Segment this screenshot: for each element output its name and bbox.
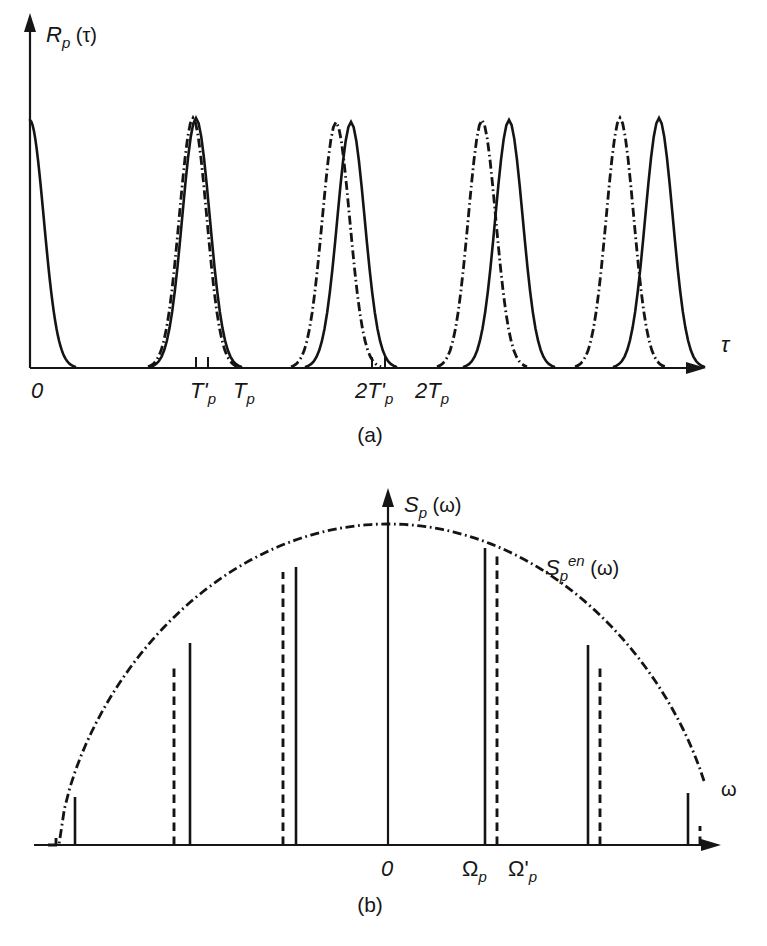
panel-a-caption: (a) [357,423,383,446]
panel-a: 0T'pTp2T'p2TpRp (τ)τ(a) [24,13,731,446]
panel-a-dashdot-peak [148,118,238,367]
panel-b-y-axis-label: Sp (ω) [404,492,462,521]
figure-container: 0T'pTp2T'p2TpRp (τ)τ(a) 0ΩpΩ'pSp (ω)Spen… [0,0,767,946]
panel-a-x-axis-label: τ [721,332,731,357]
panel-b-x-tick-label: Ω'p [508,856,537,885]
panel-a-y-axis-label: Rp (τ) [46,22,97,51]
panel-b-x-axis-arrowhead [701,839,721,851]
panel-a-solid-peak [30,120,75,367]
panel-a-solid-peak [464,120,554,367]
panel-a-x-tick-label: 2T'p [354,378,393,407]
panel-a-x-tick-label-text: 0 [31,378,44,403]
panel-a-x-tick-label: Tp [233,378,255,407]
panel-b-x-tick-label: Ωp [462,856,487,885]
panel-b: 0ΩpΩ'pSp (ω)Spen (ω)ω(b) [34,488,737,916]
panel-a-x-axis-arrowhead [686,362,706,374]
panel-a-x-tick-label: 0 [31,378,44,403]
panel-a-x-tick-label: 2Tp [414,378,449,407]
panel-b-y-axis-arrowhead [382,488,394,507]
panel-b-x-tick-label: 0 [381,856,394,881]
panel-a-x-tick-label: T'p [190,378,216,407]
panel-a-x-tick-label-text: T'p [190,378,216,407]
panel-a-x-tick-label-text: Tp [233,378,255,407]
figure-svg: 0T'pTp2T'p2TpRp (τ)τ(a) 0ΩpΩ'pSp (ω)Spen… [0,0,767,946]
panel-a-solid-peak [614,118,704,367]
panel-b-caption: (b) [357,893,383,916]
panel-a-x-tick-label-text: 2Tp [414,378,449,407]
panel-a-y-axis-arrowhead [24,13,36,32]
panel-a-solid-peak [151,118,241,367]
panel-b-envelope-label: Spen (ω) [545,552,619,584]
panel-b-x-axis-label: ω [721,778,737,800]
panel-a-x-tick-label-text: 2T'p [354,378,393,407]
